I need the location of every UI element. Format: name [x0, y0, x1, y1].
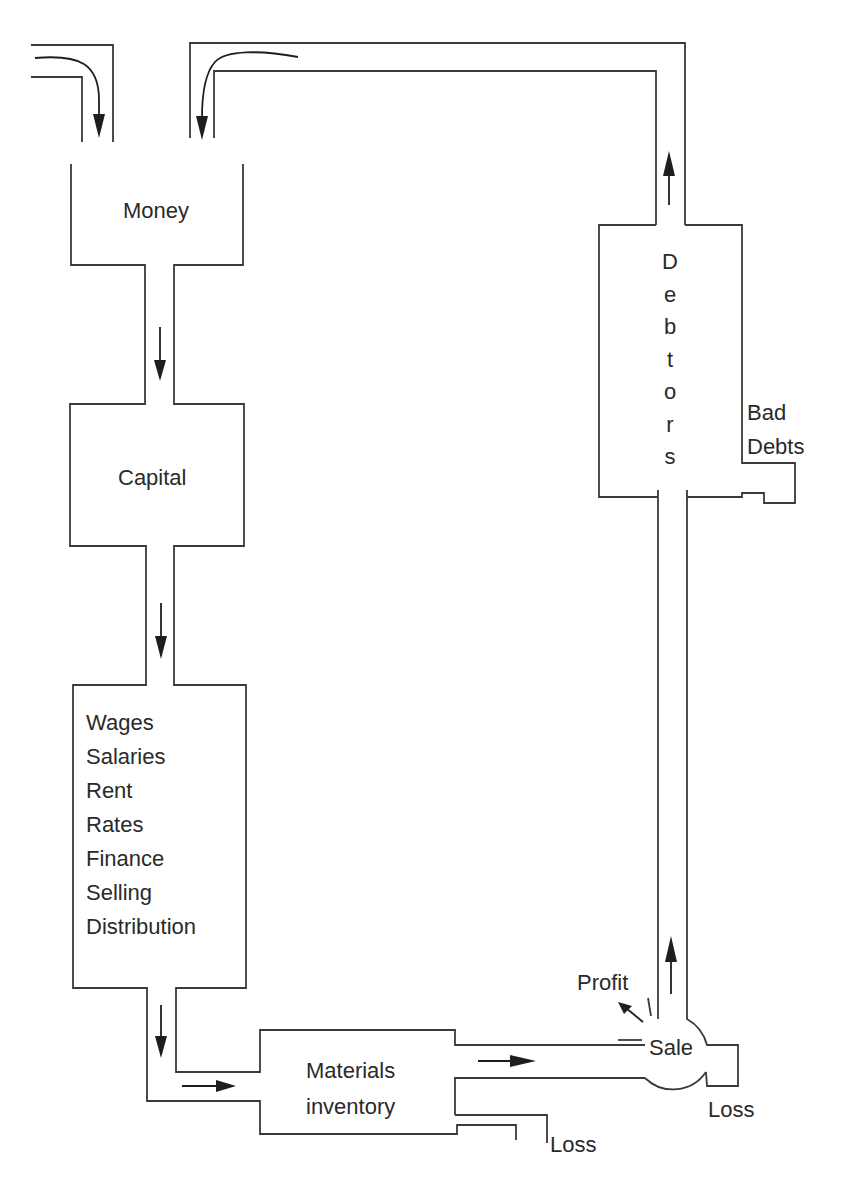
- arrow-up-icon: [665, 936, 677, 962]
- expense-item: Distribution: [86, 910, 196, 944]
- debtors-label: D e b t o r s: [655, 246, 685, 474]
- money-label: Money: [123, 196, 189, 226]
- capital-box: [70, 360, 244, 656]
- arrow-right-icon: [216, 1080, 236, 1092]
- sale-label: Sale: [649, 1033, 693, 1063]
- arrow-down-icon: [155, 636, 167, 659]
- external-inflow-pipe: [31, 45, 113, 142]
- arrow-right-icon: [510, 1055, 536, 1067]
- expense-item: Finance: [86, 842, 196, 876]
- arrow-down-icon: [154, 360, 166, 381]
- arrow-up-icon: [663, 151, 675, 176]
- expense-item: Selling: [86, 876, 196, 910]
- expenses-list: Wages Salaries Rent Rates Finance Sellin…: [86, 706, 196, 944]
- arrow-down-icon: [93, 114, 105, 138]
- materials-loss-label: Loss: [550, 1130, 596, 1160]
- expense-item: Salaries: [86, 740, 196, 774]
- bad-debts-label: Bad Debts: [747, 396, 804, 464]
- materials-label: Materials inventory: [306, 1053, 395, 1125]
- arrow-down-icon: [155, 1036, 167, 1058]
- expense-item: Rates: [86, 808, 196, 842]
- sale-node: [618, 490, 738, 1089]
- arrow-down-icon: [196, 116, 208, 140]
- capital-label: Capital: [118, 463, 186, 493]
- expense-item: Wages: [86, 706, 196, 740]
- flow-diagram: [0, 0, 851, 1195]
- return-pipe: [190, 43, 685, 225]
- expense-item: Rent: [86, 774, 196, 808]
- money-box: [71, 164, 243, 360]
- sale-loss-label: Loss: [708, 1095, 754, 1125]
- profit-label: Profit: [577, 968, 628, 998]
